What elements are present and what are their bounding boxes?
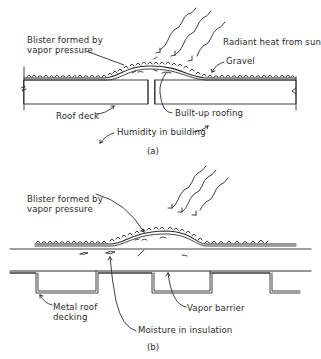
leader-blister-b	[96, 194, 144, 232]
label-roof-deck: Roof deck	[56, 111, 99, 121]
roof-deck-right	[155, 80, 296, 104]
radiant-heat-arrows-b	[168, 166, 228, 215]
radiant-heat-arrows-a	[156, 8, 225, 61]
moisture-droplets	[80, 237, 187, 256]
leader-moisture	[110, 257, 136, 331]
label-blister-a-line1: Blister formed by	[27, 35, 103, 45]
label-blister-b-line1: Blister formed by	[27, 194, 103, 204]
label-humidity: Humidity in building	[117, 127, 206, 137]
label-metal-deck-line2: decking	[53, 312, 87, 322]
roof-deck-left	[24, 80, 148, 104]
figure-a-drawing	[21, 8, 296, 143]
gravel-left	[27, 62, 152, 77]
break-line-right	[292, 77, 296, 110]
label-moisture: Moisture in insulation	[138, 325, 232, 335]
label-gravel: Gravel	[226, 56, 255, 66]
label-built-up-roofing: Built-up roofing	[175, 108, 243, 118]
metal-roof-deck	[10, 273, 300, 293]
leader-gravel	[212, 62, 224, 72]
label-vapor-barrier: Vapor barrier	[187, 303, 245, 313]
leader-built-up	[160, 73, 172, 113]
label-blister-a-line2: vapor pressure	[27, 45, 93, 55]
leader-humidity-left	[100, 133, 114, 143]
label-radiant-heat: Radiant heat from sun	[223, 37, 321, 47]
leader-vapor-barrier	[168, 273, 186, 307]
leader-metal-deck	[40, 295, 52, 305]
label-blister-b-line2: vapor pressure	[27, 204, 93, 214]
caption-a: (a)	[147, 146, 159, 156]
caption-b: (b)	[147, 342, 159, 352]
label-metal-deck-line1: Metal roof	[53, 302, 97, 312]
